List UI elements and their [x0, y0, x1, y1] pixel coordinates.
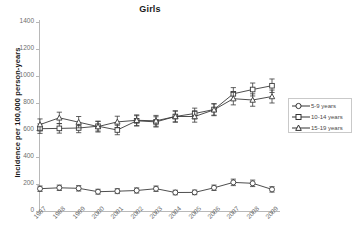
data-point-circle — [57, 185, 62, 190]
data-point-triangle — [269, 94, 274, 99]
data-point-square — [115, 128, 120, 133]
data-point-circle — [231, 180, 236, 185]
data-point-circle — [38, 186, 43, 191]
data-point-triangle — [57, 115, 62, 120]
legend-label-10-14: 10-14 years — [311, 112, 343, 122]
data-series-layer — [37, 79, 274, 195]
y-axis-ticks — [36, 23, 40, 212]
data-point-circle — [154, 186, 159, 191]
legend-item-15-19[interactable]: 15-19 years — [291, 123, 351, 133]
data-point-circle — [212, 185, 217, 190]
series-5-9-years — [37, 179, 274, 195]
data-point-circle — [134, 188, 139, 193]
data-point-circle — [76, 186, 81, 191]
chart-legend: 5-9 years 10-14 years 15-19 years — [288, 98, 352, 133]
data-point-square — [270, 83, 275, 88]
data-point-square — [250, 87, 255, 92]
legend-item-10-14[interactable]: 10-14 years — [291, 112, 351, 122]
legend-marker-circle-icon — [291, 101, 311, 111]
legend-label-5-9: 5-9 years — [311, 101, 336, 111]
data-point-circle — [270, 187, 275, 192]
legend-label-15-19: 15-19 years — [311, 123, 343, 133]
legend-marker-triangle-icon — [291, 123, 311, 133]
chart-container: Girls Incidence per 100,000 person-years… — [0, 0, 358, 245]
legend-item-5-9[interactable]: 5-9 years — [291, 101, 351, 111]
series-15-19-years — [37, 90, 274, 132]
data-point-circle — [115, 189, 120, 194]
data-point-square — [57, 126, 62, 131]
data-point-circle — [173, 190, 178, 195]
legend-marker-square-icon — [291, 112, 311, 122]
data-point-circle — [250, 181, 255, 186]
data-point-circle — [96, 189, 101, 194]
data-point-circle — [192, 190, 197, 195]
